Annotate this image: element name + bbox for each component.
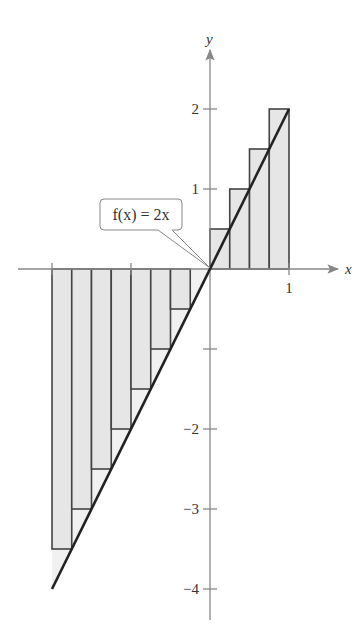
riemann-rectangle [230, 189, 250, 269]
x-tick-label: 1 [285, 280, 293, 296]
y-tick-label: −4 [183, 581, 199, 597]
riemann-sum-chart: f(x) = 2x x y 121−2−3−4 [0, 0, 363, 631]
riemann-rectangle [72, 269, 92, 509]
y-axis-label: y [204, 31, 213, 47]
y-tick-label: 1 [192, 181, 200, 197]
riemann-rectangle [111, 269, 131, 429]
riemann-rectangles [52, 109, 289, 549]
riemann-rectangle [269, 109, 289, 269]
riemann-rectangle [131, 269, 151, 389]
y-tick-label: −2 [183, 421, 199, 437]
y-tick-label: −3 [183, 501, 199, 517]
riemann-rectangle [151, 269, 171, 349]
function-callout: f(x) = 2x [100, 199, 210, 268]
riemann-rectangle [92, 269, 112, 469]
riemann-rectangle [52, 269, 72, 549]
x-axis-label: x [344, 261, 352, 277]
function-label: f(x) = 2x [112, 206, 169, 224]
riemann-rectangle [171, 269, 191, 309]
y-tick-label: 2 [192, 101, 200, 117]
